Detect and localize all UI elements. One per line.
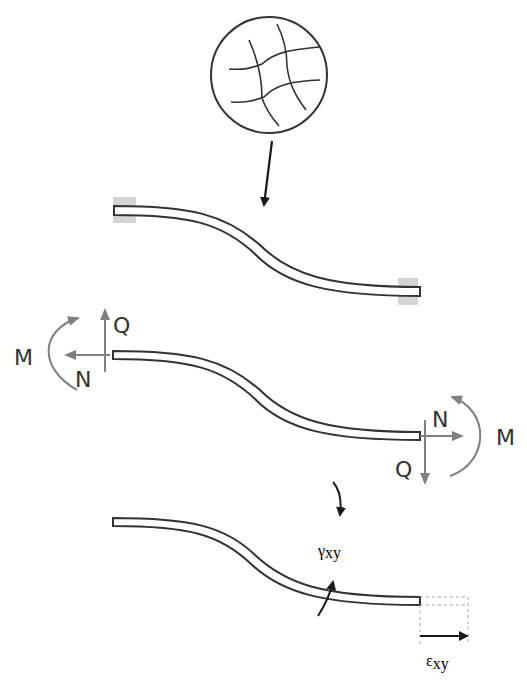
beam-mechanics-diagram: M N Q N Q M γxy	[0, 0, 527, 680]
zoom-arrow	[264, 141, 272, 205]
shear-strain-symbol: γ	[317, 542, 325, 560]
shear-strain-subscript: xy	[325, 544, 341, 562]
clamped-beam	[113, 197, 420, 305]
beam-clamped	[114, 206, 420, 296]
right-normal-label: N	[432, 407, 448, 432]
shear-strain-arrow-top	[333, 482, 341, 515]
beam-free-body	[113, 351, 420, 440]
right-shear-label: Q	[395, 457, 412, 482]
beam-strain	[113, 518, 420, 605]
left-normal-label: N	[75, 367, 91, 392]
left-shear-label: Q	[113, 313, 130, 338]
free-body-beam: M N Q N Q M	[14, 310, 515, 483]
strain-beam: γxy εxy	[113, 482, 468, 673]
grain-lines	[229, 24, 320, 126]
elongation-indicator	[420, 597, 468, 645]
shear-strain-label: γxy	[317, 542, 341, 562]
normal-strain-label: εxy	[426, 652, 449, 673]
normal-strain-subscript: xy	[433, 655, 449, 673]
right-moment-label: M	[496, 425, 515, 450]
detail-circle	[211, 17, 327, 133]
microstructure-detail	[211, 17, 327, 205]
left-moment-label: M	[14, 345, 33, 370]
